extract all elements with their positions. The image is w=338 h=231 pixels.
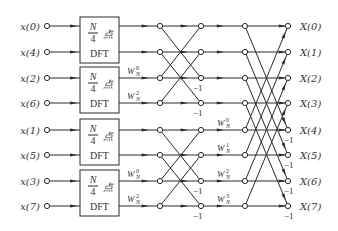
arrow-head-icon xyxy=(142,101,149,104)
arrow-head-icon xyxy=(217,50,224,53)
input-node xyxy=(44,23,49,28)
arrow-head-icon xyxy=(279,50,286,53)
output-node xyxy=(285,152,290,157)
input-label: x(4) xyxy=(20,47,40,58)
arrow-head-icon xyxy=(70,128,77,131)
stage3-node xyxy=(242,100,247,105)
input-node xyxy=(44,178,49,183)
stage2-node xyxy=(198,152,203,157)
stage1-node xyxy=(157,100,162,105)
minus-one-label: −1 xyxy=(193,108,203,118)
input-node xyxy=(44,49,49,54)
svg-text:W: W xyxy=(217,118,226,128)
arrow-head-icon xyxy=(279,128,286,131)
stage3-node xyxy=(242,203,247,208)
input-label: x(5) xyxy=(20,150,40,161)
svg-text:W: W xyxy=(217,194,226,204)
arrow-head-icon xyxy=(279,204,286,207)
fft-flow-graph: N4点DFTN4点DFTN4点DFTN4点DFTx(0)x(4)x(2)x(6)… xyxy=(0,0,338,231)
stage2-node xyxy=(198,100,203,105)
svg-text:N: N xyxy=(135,174,141,180)
arrow-head-icon xyxy=(142,24,149,27)
stage1-node xyxy=(157,127,162,132)
twiddle-factor-label: W2N xyxy=(127,90,141,102)
svg-text:N: N xyxy=(225,123,231,129)
arrow-head-icon xyxy=(217,179,224,182)
svg-text:N: N xyxy=(225,199,231,205)
fraction-numerator: N xyxy=(89,71,98,82)
stage3-node xyxy=(242,23,247,28)
output-node xyxy=(285,178,290,183)
input-node xyxy=(44,100,49,105)
points-label: 点 xyxy=(103,131,114,142)
arrow-head-icon xyxy=(142,128,149,131)
svg-text:W: W xyxy=(127,169,136,179)
fraction-denominator: 4 xyxy=(91,135,96,146)
dft-label: DFT xyxy=(90,150,109,161)
fraction-denominator: 4 xyxy=(91,83,96,94)
minus-one-label: −1 xyxy=(284,135,294,145)
stage2-node xyxy=(198,203,203,208)
arrow-head-icon xyxy=(282,83,288,91)
stage3-node xyxy=(242,152,247,157)
arrow-head-icon xyxy=(217,76,224,79)
input-label: x(6) xyxy=(20,98,40,109)
stage3-node xyxy=(242,178,247,183)
twiddle-factor-label: W2N xyxy=(127,193,141,205)
input-label: x(2) xyxy=(20,73,40,84)
arrow-head-icon xyxy=(279,24,286,27)
arrow-head-icon xyxy=(70,204,77,207)
arrow-head-icon xyxy=(181,24,188,27)
fraction-denominator: 4 xyxy=(91,33,96,44)
input-node xyxy=(44,75,49,80)
arrow-head-icon xyxy=(282,117,288,125)
stage2-node xyxy=(198,127,203,132)
stage1-node xyxy=(157,152,162,157)
svg-text:N: N xyxy=(135,199,141,205)
arrow-head-icon xyxy=(142,76,149,79)
minus-one-label: −1 xyxy=(284,160,294,170)
output-node xyxy=(285,203,290,208)
minus-one-label: −1 xyxy=(193,186,203,196)
stage3-node xyxy=(242,49,247,54)
output-node xyxy=(285,75,290,80)
input-label: x(1) xyxy=(20,125,40,136)
arrow-head-icon xyxy=(181,50,188,53)
output-label: X(4) xyxy=(299,125,321,136)
twiddle-factor-label: W0N xyxy=(127,168,141,180)
twiddle-factor-label: W0N xyxy=(127,65,141,77)
minus-one-label: −1 xyxy=(193,83,203,93)
arrow-head-icon xyxy=(279,101,286,104)
arrow-head-icon xyxy=(181,153,188,156)
input-label: x(3) xyxy=(20,176,40,187)
svg-text:N: N xyxy=(135,96,141,102)
points-label: 点 xyxy=(103,29,114,40)
svg-text:N: N xyxy=(135,71,141,77)
output-label: X(3) xyxy=(299,98,321,109)
arrow-head-icon xyxy=(279,153,286,156)
svg-text:W: W xyxy=(217,169,226,179)
svg-text:W: W xyxy=(127,91,136,101)
stage1-node xyxy=(157,23,162,28)
svg-text:N: N xyxy=(225,148,231,154)
arrow-head-icon xyxy=(217,128,224,131)
output-label: X(6) xyxy=(299,176,321,187)
arrow-head-icon xyxy=(217,101,224,104)
arrow-head-icon xyxy=(70,50,77,53)
arrow-head-icon xyxy=(279,76,286,79)
output-label: X(1) xyxy=(299,47,321,58)
output-label: X(5) xyxy=(299,150,321,161)
fraction-numerator: N xyxy=(89,123,98,134)
arrow-head-icon xyxy=(142,153,149,156)
svg-text:W: W xyxy=(217,143,226,153)
arrow-head-icon xyxy=(282,108,288,116)
stage1-node xyxy=(157,49,162,54)
minus-one-label: −1 xyxy=(193,211,203,221)
output-node xyxy=(285,100,290,105)
arrow-head-icon xyxy=(70,24,77,27)
arrow-head-icon xyxy=(282,57,288,65)
svg-text:W: W xyxy=(127,66,136,76)
dft-label: DFT xyxy=(90,201,109,212)
arrow-head-icon xyxy=(142,179,149,182)
output-label: X(2) xyxy=(299,73,321,84)
